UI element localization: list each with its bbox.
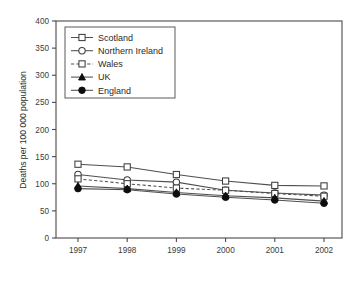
y-tick-label: 150	[35, 153, 49, 162]
data-point-marker	[321, 200, 328, 207]
legend-label: Scotland	[98, 33, 133, 43]
data-point-marker	[173, 171, 179, 177]
x-tick-label: 1997	[69, 246, 88, 255]
legend-label: Wales	[98, 59, 123, 69]
data-point-marker	[79, 87, 86, 94]
legend-label: Northern Ireland	[98, 46, 163, 56]
data-point-marker	[75, 185, 82, 192]
data-point-marker	[79, 61, 85, 67]
data-point-marker	[173, 179, 179, 185]
y-tick-label: 250	[35, 98, 49, 107]
y-tick-label: 100	[35, 180, 49, 189]
x-tick-label: 1998	[118, 246, 137, 255]
y-tick-label: 400	[35, 17, 49, 26]
x-tick-label: 2000	[216, 246, 235, 255]
data-point-marker	[124, 186, 131, 193]
data-point-marker	[75, 161, 81, 167]
data-point-marker	[79, 34, 85, 40]
chart-figure: 050100150200250300350400 199719981999200…	[0, 0, 358, 286]
y-tick-label: 350	[35, 44, 49, 53]
chart-legend: ScotlandNorthern IrelandWalesUKEngland	[65, 27, 175, 98]
data-point-marker	[79, 48, 85, 54]
y-tick-label: 200	[35, 126, 49, 135]
data-point-marker	[173, 191, 180, 198]
caption-smudge	[6, 274, 9, 280]
data-point-marker	[223, 178, 229, 184]
x-tick-label: 2002	[315, 246, 334, 255]
legend-label: UK	[98, 72, 111, 82]
data-point-marker	[222, 194, 229, 201]
chart-background	[0, 0, 358, 286]
y-tick-label: 300	[35, 71, 49, 80]
data-point-marker	[272, 197, 279, 204]
data-point-marker	[272, 182, 278, 188]
line-chart: 050100150200250300350400 199719981999200…	[0, 0, 358, 286]
data-point-marker	[75, 176, 81, 182]
x-tick-label: 1999	[167, 246, 186, 255]
y-axis-title: Deaths per 100 000 population	[18, 71, 28, 189]
data-point-marker	[124, 164, 130, 170]
x-tick-label: 2001	[266, 246, 285, 255]
y-tick-label: 50	[40, 207, 50, 216]
legend-label: England	[98, 86, 131, 96]
data-point-marker	[321, 183, 327, 189]
y-tick-label: 0	[44, 234, 49, 243]
